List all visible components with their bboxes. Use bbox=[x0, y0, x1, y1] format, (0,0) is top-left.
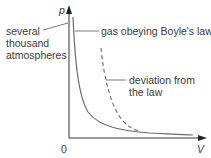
x-axis-arrow-icon bbox=[198, 135, 207, 141]
y-axis-arrow-icon bbox=[66, 5, 72, 14]
pressure-note-line-1: several bbox=[6, 25, 40, 37]
pressure-note-line-3: atmospheres bbox=[6, 49, 67, 61]
y-axis-label: p bbox=[59, 4, 65, 16]
pressure-leader-line bbox=[43, 23, 68, 30]
origin-label: 0 bbox=[61, 143, 67, 155]
deviation-label-line-1: deviation from bbox=[129, 74, 195, 86]
boyle-curve-label: gas obeying Boyle's law bbox=[101, 25, 211, 37]
pressure-note-line-2: thousand bbox=[6, 37, 49, 49]
deviation-label-line-2: the law bbox=[129, 86, 162, 98]
x-axis-label: V bbox=[197, 143, 204, 155]
